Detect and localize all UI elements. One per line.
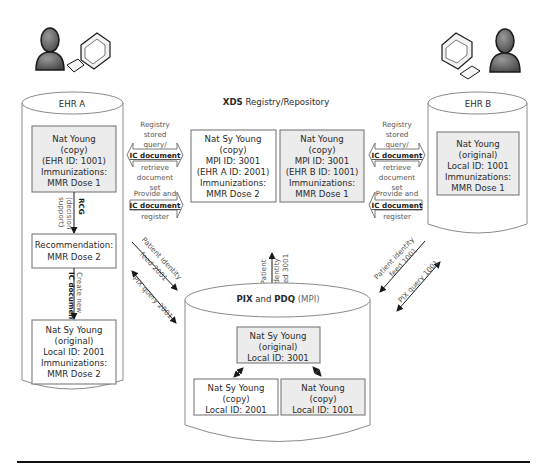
box-line: Nat Young [456, 139, 500, 149]
computer-icon [442, 33, 480, 79]
query-label: query/ [385, 140, 409, 149]
ehr-b-title: EHR B [465, 99, 492, 109]
box-line: (copy) [60, 145, 87, 155]
ehr-b-database: EHR B Nat Young (original) Local ID: 100… [428, 92, 527, 233]
box-line: (copy) [222, 394, 249, 404]
box-line: Immunizations: [289, 178, 355, 188]
query-label: retrieve [383, 163, 412, 172]
box-line: MMR Dose 2 [47, 369, 100, 379]
box-line: Nat Sy Young [208, 383, 265, 393]
query-label: Registry [382, 120, 412, 129]
box-line: (original) [459, 150, 498, 160]
box-line: (copy) [309, 394, 336, 404]
box-line: MMR Dose 2 [206, 189, 259, 199]
query-label: document [379, 173, 415, 182]
ehr-a-database: EHR A Nat Young (copy) (EHR ID: 1001) Im… [22, 92, 123, 389]
box-line: MPI ID: 3001 [206, 156, 261, 166]
xds-registry-repository: XDS Registry/Repository Nat Sy Young (co… [191, 97, 364, 202]
provide-document-label: IC document [372, 201, 423, 210]
box-line: Immunizations: [41, 167, 107, 177]
box-line: (EHR ID: 1001) [42, 156, 106, 166]
query-label: query/ [143, 140, 167, 149]
box-line: Local ID: 2001 [205, 405, 267, 415]
rcg-label: RCG [77, 198, 86, 215]
provide-label: Provide and [134, 189, 176, 198]
query-label: Registry [140, 120, 170, 129]
provide-label: register [383, 212, 411, 221]
box-line: Nat Sy Young [46, 325, 103, 335]
person-icon [36, 28, 64, 70]
feed-label: Patient [259, 259, 268, 284]
person-icon [490, 29, 520, 72]
box-line: (original) [55, 336, 94, 346]
box-line: Nat Young [301, 383, 345, 393]
box-line: MMR Dose 2 [47, 252, 100, 262]
rcg-sublabel: support) [57, 197, 66, 228]
box-line: Local ID: 3001 [247, 353, 309, 363]
box-line: (copy) [308, 145, 335, 155]
pix-pdq-mpi-database: PIX and PDQ (MPI) Nat Sy Young (original… [185, 283, 370, 442]
box-line: Nat Young [52, 134, 96, 144]
box-line: Local ID: 1001 [447, 161, 509, 171]
box-line: MMR Dose 1 [295, 189, 348, 199]
provide-label: Provide and [376, 189, 418, 198]
left-provide-transaction: Provide and IC document register [130, 189, 183, 221]
right-identity-feed: Patient identity feed 1001 PIX query 100… [372, 235, 440, 311]
box-line: Nat Sy Young [250, 331, 307, 341]
box-line: MPI ID: 3001 [295, 156, 350, 166]
box-line: Nat Sy Young [205, 134, 262, 144]
query-document-label: IC document [130, 151, 181, 160]
box-line: (EHR A ID: 2001) [197, 167, 270, 177]
create-label-bold: IC document [67, 272, 76, 323]
box-line: MMR Dose 1 [47, 178, 100, 188]
right-provide-transaction: Provide and IC document register [369, 189, 423, 221]
box-line: Nat Young [300, 134, 344, 144]
box-line: Immunizations: [41, 358, 107, 368]
xds-title: XDS Registry/Repository [223, 97, 329, 107]
query-label: stored [144, 130, 167, 139]
box-line: Immunizations: [200, 178, 266, 188]
box-line: Immunizations: [445, 172, 511, 182]
box-line: MMR Dose 1 [451, 183, 504, 193]
box-line: Local ID: 2001 [43, 347, 105, 357]
box-line: Recommendation: [35, 240, 113, 250]
actor-right-user-computer-icon [442, 29, 520, 79]
ehr-a-title: EHR A [59, 99, 86, 109]
box-line: (original) [259, 342, 298, 352]
box-line: (EHR B ID: 1001) [286, 167, 359, 177]
query-label: document [137, 173, 173, 182]
query-document-label: IC document [372, 151, 423, 160]
box-line: Local ID: 1001 [292, 405, 354, 415]
actor-left-user-computer-icon [36, 28, 110, 72]
provide-label: register [141, 212, 169, 221]
pix-title: PIX and PDQ (MPI) [236, 294, 319, 304]
query-label: stored [386, 130, 409, 139]
box-line: (copy) [219, 145, 246, 155]
ihe-immunization-diagram: EHR A Nat Young (copy) (EHR ID: 1001) Im… [0, 0, 548, 470]
computer-icon [67, 33, 110, 72]
query-label: retrieve [141, 163, 170, 172]
left-query-transaction: Registry stored query/ IC document retri… [127, 120, 183, 192]
left-identity-feed: Patient identity feed 2001 PIX query 200… [131, 235, 185, 323]
provide-document-label: IC document [130, 201, 181, 210]
feed-label: identity [272, 258, 281, 286]
right-query-transaction: Registry stored query/ IC document retri… [369, 120, 425, 192]
